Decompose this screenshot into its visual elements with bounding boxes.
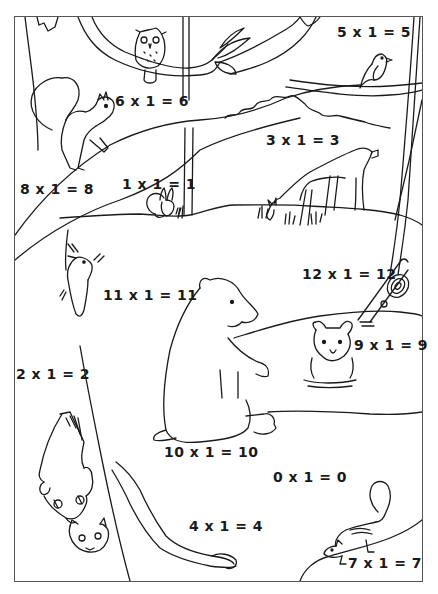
equation-12: 12 x 1 = 12 bbox=[302, 266, 396, 282]
left-tree-trunk bbox=[25, 17, 38, 150]
songbird bbox=[360, 54, 392, 88]
equation-8: 8 x 1 = 8 bbox=[20, 181, 94, 197]
equation-0: 0 x 1 = 0 bbox=[273, 469, 347, 485]
equation-4: 4 x 1 = 4 bbox=[189, 518, 263, 534]
right-tree-trunk bbox=[390, 17, 422, 275]
leaf-icon bbox=[37, 17, 58, 31]
winding-log bbox=[112, 462, 236, 569]
chipmunk-ground bbox=[300, 520, 422, 581]
meadow-ground bbox=[60, 205, 422, 225]
forest-scene-illustration bbox=[0, 0, 438, 594]
raccoon bbox=[39, 412, 93, 523]
equation-1: 1 x 1 = 1 bbox=[122, 176, 196, 192]
equation-6: 6 x 1 = 6 bbox=[115, 93, 189, 109]
worksheet-page: 5 x 1 = 5 6 x 1 = 6 3 x 1 = 3 1 x 1 = 1 … bbox=[0, 0, 438, 594]
bear-cub bbox=[304, 321, 356, 387]
equation-10: 10 x 1 = 10 bbox=[164, 444, 258, 460]
chipmunk bbox=[324, 482, 390, 565]
squirrel bbox=[31, 78, 114, 170]
raccoon-kit bbox=[69, 518, 108, 552]
owl-branch bbox=[78, 17, 228, 76]
equation-7: 7 x 1 = 7 bbox=[348, 555, 422, 571]
bear bbox=[154, 278, 276, 442]
equation-9: 9 x 1 = 9 bbox=[354, 337, 428, 353]
equation-11: 11 x 1 = 11 bbox=[103, 287, 197, 303]
leaf-icon bbox=[215, 62, 236, 74]
leaf-icon bbox=[212, 38, 250, 60]
lower-tree-trunk bbox=[66, 230, 130, 581]
equation-3: 3 x 1 = 3 bbox=[266, 132, 340, 148]
woodpecker bbox=[60, 244, 104, 316]
rabbit bbox=[147, 188, 181, 217]
equation-5: 5 x 1 = 5 bbox=[337, 24, 411, 40]
equation-2: 2 x 1 = 2 bbox=[16, 366, 90, 382]
